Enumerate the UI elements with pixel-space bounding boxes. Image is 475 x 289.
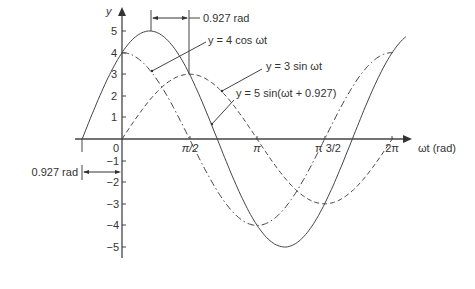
x-axis-label: ωt (rad) (418, 142, 456, 154)
leader-cos (152, 42, 206, 71)
y-tick-1: 1 (111, 111, 117, 123)
phase-left-label: 0.927 rad (32, 166, 78, 178)
x-tick-pi: π (253, 142, 261, 154)
legend-res-label: y = 5 sin(ωt + 0.927) (236, 87, 336, 99)
y-tick-n4: −4 (106, 219, 119, 231)
y-axis-arrow-icon (118, 7, 126, 16)
y-axis-label: y (105, 5, 113, 17)
arrow-right-icon (115, 170, 121, 174)
x-tick-0: 0 (113, 142, 119, 154)
x-tick-pi-half: π/2 (182, 142, 199, 154)
legend-sin-label: y = 3 sin ωt (266, 60, 322, 72)
legend-cos-label: y = 4 cos ωt (208, 34, 267, 46)
phase-top-label: 0.927 rad (203, 12, 249, 24)
leader-res (212, 100, 234, 124)
y-tick-4: 4 (111, 47, 117, 59)
y-tick-n3: −3 (106, 198, 119, 210)
x-tick-2pi: 2π (385, 142, 399, 154)
phasor-sine-chart: 5 4 3 2 1 0 −1 −2 −3 −4 −5 π/2 π π 3/2 2… (0, 0, 475, 289)
arrow-left-icon (83, 170, 89, 174)
y-tick-2: 2 (111, 90, 117, 102)
x-tick-3pi-half: π 3/2 (315, 142, 341, 154)
y-tick-n2: −2 (106, 176, 119, 188)
y-tick-n5: −5 (106, 241, 119, 253)
y-tick-5: 5 (111, 25, 117, 37)
arrow-left-icon (152, 16, 158, 20)
y-tick-n1: −1 (106, 155, 119, 167)
x-axis-arrow-icon (403, 135, 412, 143)
arrow-right-icon (182, 16, 188, 20)
